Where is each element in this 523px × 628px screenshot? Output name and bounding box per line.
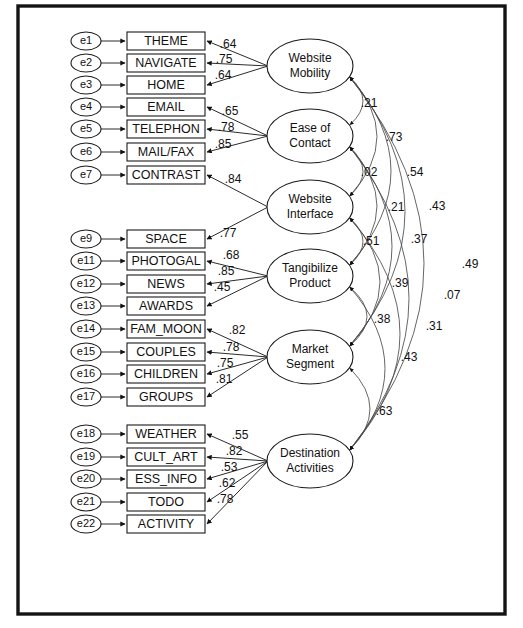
error-term-label-e5: e5 [80,122,92,134]
error-term-label-e17: e17 [77,390,95,402]
loading-path-wi-space [207,207,268,239]
observed-variable-label-theme: THEME [144,34,188,48]
correlation-value-ms-da: .63 [376,404,393,418]
sem-diagram-root: .21.02.51.38.63.73.21.39.43.54.37.31.43.… [0,0,523,628]
correlation-value-wm-ms: .43 [429,199,446,213]
observed-variable-label-fam-moon: FAM_MOON [130,322,202,336]
observed-variable-label-cult-art: CULT_ART [134,450,198,464]
error-term-label-e18: e18 [77,427,95,439]
observed-variable-label-activity: ACTIVITY [138,517,195,531]
observed-variable-label-couples: COUPLES [136,345,196,359]
observed-variable-label-navigate: NAVIGATE [135,56,196,70]
loading-value-email: .65 [222,104,239,118]
latent-factor-label-wi-line1: Website [288,192,331,206]
loading-path-ec-telephon [207,129,268,136]
observed-variable-label-space: SPACE [145,232,186,246]
observed-variable-label-groups: GROUPS [139,390,193,404]
error-term-label-e19: e19 [77,450,95,462]
error-term-label-e13: e13 [77,299,95,311]
observed-variable-label-ess-info: ESS_INFO [135,472,197,486]
correlation-value-ec-da: .07 [444,288,461,302]
latent-factor-label-wm-line1: Website [288,51,331,65]
loading-value-groups: .81 [216,372,233,386]
loading-value-ess-info: .53 [221,460,238,474]
loading-value-awards: .45 [214,280,231,294]
error-term-label-e6: e6 [80,145,92,157]
error-term-label-e1: e1 [80,34,92,46]
loading-value-todo: .62 [219,476,236,490]
loading-value-home: .64 [215,68,232,82]
error-term-label-e16: e16 [77,367,95,379]
latent-factor-label-wm-line2: Mobility [290,66,331,80]
correlation-value-tp-da: .43 [401,350,418,364]
error-term-label-e12: e12 [77,277,95,289]
error-term-label-e7: e7 [80,168,92,180]
loading-value-weather: .55 [232,428,249,442]
correlation-value-wm-tp: .54 [407,165,424,179]
error-term-label-e2: e2 [80,56,92,68]
loading-value-space: .77 [220,226,237,240]
loading-value-cult-art: .82 [226,444,243,458]
correlation-value-wm-wi: .73 [386,130,403,144]
error-term-label-e4: e4 [80,100,92,112]
observed-variable-label-email: EMAIL [147,100,185,114]
observed-variable-label-weather: WEATHER [135,427,197,441]
latent-factor-label-ec-line2: Contact [289,136,331,150]
loading-value-news: .85 [218,264,235,278]
error-term-label-e14: e14 [77,322,95,334]
correlation-value-ec-wi: .02 [361,165,378,179]
loading-value-telephon: .78 [218,120,235,134]
observed-variable-label-todo: TODO [148,495,184,509]
error-term-label-e3: e3 [80,78,92,90]
loading-value-fam-moon: .82 [229,323,246,337]
observed-variable-label-home: HOME [147,78,185,92]
observed-variable-label-children: CHILDREN [134,367,198,381]
correlation-value-wi-tp: .51 [363,234,380,248]
sem-path-diagram: .21.02.51.38.63.73.21.39.43.54.37.31.43.… [0,0,523,628]
observed-variable-label-telephon: TELEPHON [132,122,199,136]
loading-value-photogal: .68 [223,248,240,262]
loading-value-activity: .78 [217,492,234,506]
error-term-label-e22: e22 [77,517,95,529]
correlation-value-wi-da: .31 [426,319,443,333]
observed-variable-label-mail-fax: MAIL/FAX [138,145,195,159]
observed-variable-label-awards: AWARDS [139,299,193,313]
loading-value-couples: .78 [223,340,240,354]
observed-variable-label-contrast: CONTRAST [132,168,201,182]
loading-value-navigate: .75 [216,52,233,66]
error-term-paths [101,41,125,524]
latent-factor-label-ms-line2: Segment [286,357,335,371]
loading-value-theme: .64 [220,37,237,51]
error-term-label-e9: e9 [80,232,92,244]
latent-factor-label-ec-line1: Ease of [290,121,331,135]
error-term-label-e21: e21 [77,495,95,507]
latent-factor-label-da-line2: Activities [286,461,333,475]
error-term-label-e11: e11 [77,254,95,266]
latent-factor-label-wi-line2: Interface [287,207,334,221]
loading-path-tp-photogal [207,261,268,276]
loading-value-mail-fax: .85 [215,137,232,151]
correlation-arc-tp-ms [350,287,367,345]
latent-factor-label-ms-line1: Market [292,342,329,356]
observed-variable-label-news: NEWS [147,277,185,291]
loading-value-contrast: .84 [225,172,242,186]
correlation-value-wi-ms: .39 [392,276,409,290]
error-term-label-e20: e20 [77,472,95,484]
correlation-value-tp-ms: .38 [374,312,391,326]
correlation-value-ec-ms: .37 [411,232,428,246]
latent-factor-label-tp-line2: Product [289,276,331,290]
latent-factor-label-tp-line1: Tangibilize [282,261,338,275]
latent-factor-label-da-line1: Destination [280,446,340,460]
error-term-label-e15: e15 [77,345,95,357]
correlation-value-wm-da: .49 [462,257,479,271]
observed-variable-label-photogal: PHOTOGAL [131,254,200,268]
correlation-value-ec-tp: .21 [388,200,405,214]
correlation-value-wm-ec: .21 [361,96,378,110]
loading-value-children: .75 [217,356,234,370]
